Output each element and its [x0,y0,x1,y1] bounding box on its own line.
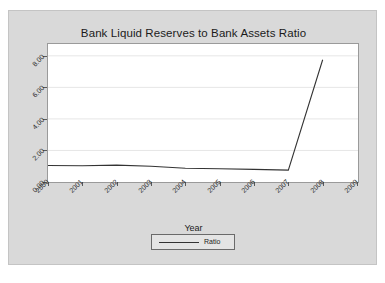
legend-item-label: Ratio [204,238,220,245]
y-tick-label: 8.00 [24,53,46,75]
chart-legend: Ratio [151,234,235,250]
y-tick-label: 4.00 [24,116,46,138]
chart-panel: Bank Liquid Reserves to Bank Assets Rati… [8,10,377,265]
plot-svg [48,44,358,182]
chart-root: Bank Liquid Reserves to Bank Assets Rati… [0,0,385,283]
y-tick-label: 2.00 [24,147,46,169]
legend-line-swatch [159,242,199,243]
series-line-ratio [48,60,323,170]
x-axis-title: Year [9,223,378,233]
plot-area [47,43,359,183]
chart-title: Bank Liquid Reserves to Bank Assets Rati… [9,27,378,39]
y-tick-label: 6.00 [24,84,46,106]
